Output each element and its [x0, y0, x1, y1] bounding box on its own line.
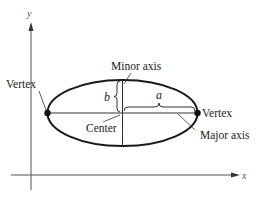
- semi-major-label: a: [156, 88, 162, 102]
- vertex-left-label: Vertex: [6, 78, 36, 90]
- y-axis-label: y: [26, 8, 32, 19]
- coordinate-axes: y x: [11, 8, 247, 190]
- vertex-left-pointer: [39, 91, 46, 110]
- semi-minor-label: b: [104, 90, 110, 104]
- minor-axis-label: Minor axis: [111, 60, 162, 72]
- major-axis-label: Major axis: [200, 129, 250, 142]
- major-axis-pointer: [178, 114, 195, 130]
- x-axis-label: x: [241, 170, 247, 181]
- ellipse-diagram: y x b a Minor axis Vertex Vertex Major a…: [0, 0, 262, 197]
- vertex-left-dot: [44, 110, 50, 116]
- brace-a-icon: [124, 103, 195, 111]
- x-axis-arrow-icon: [231, 173, 240, 178]
- brace-b-icon: [114, 81, 120, 112]
- center-pointer: [103, 115, 120, 122]
- vertex-right-label: Vertex: [202, 107, 232, 119]
- center-label: Center: [86, 122, 117, 134]
- minor-axis-pointer: [124, 73, 131, 84]
- y-axis-arrow-icon: [29, 22, 34, 31]
